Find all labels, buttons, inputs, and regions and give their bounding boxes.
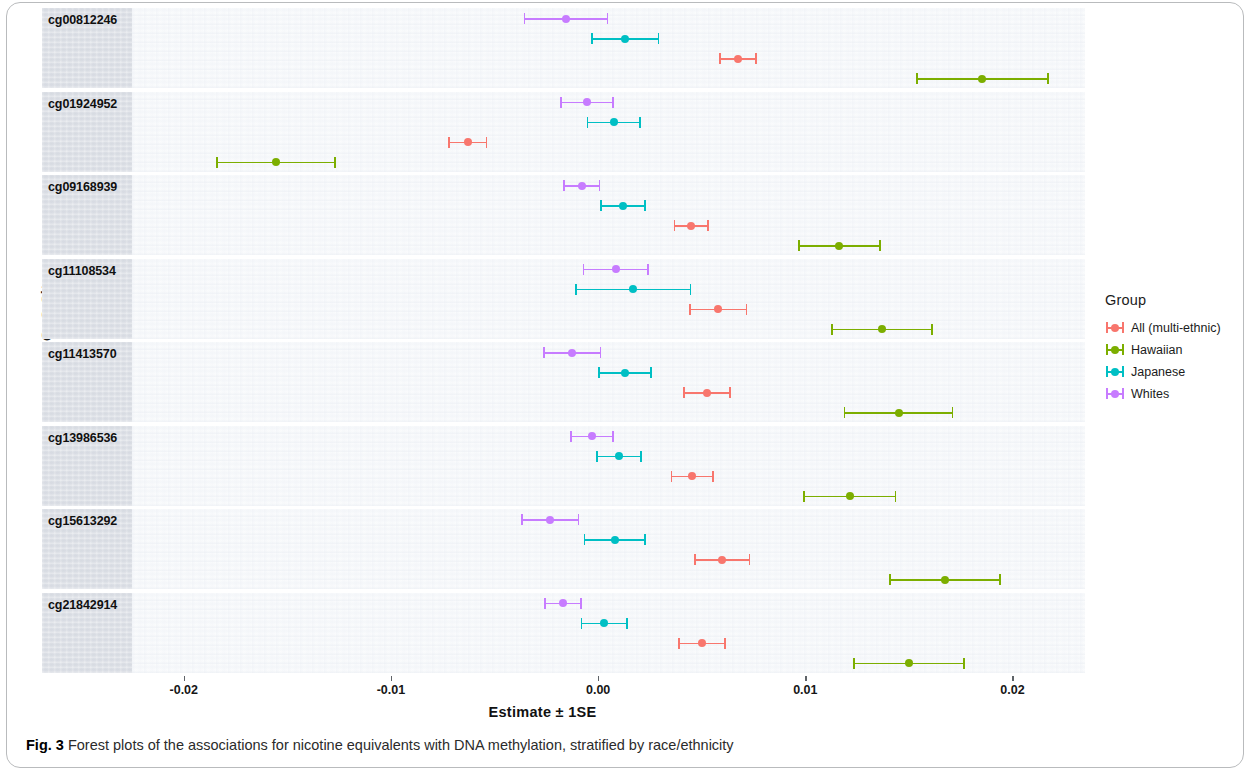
facet-row: cg00812246 — [42, 8, 1085, 88]
legend-item-hawaiian[interactable]: Hawaiian — [1105, 339, 1245, 361]
legend-key-capL — [1106, 344, 1108, 355]
facet-strip: cg00812246 — [42, 8, 132, 88]
x-tick-label: -0.01 — [356, 683, 426, 697]
cpg-site-label: cg09168939 — [48, 180, 117, 194]
legend-key-capL — [1106, 366, 1108, 377]
facet-strip: cg11413570 — [42, 342, 132, 422]
facet-panel — [132, 259, 1085, 339]
cpg-site-label: cg13986536 — [48, 431, 117, 445]
facet-panel — [132, 593, 1085, 673]
figure-number: Fig. 3 — [26, 737, 64, 753]
panel-texture — [132, 426, 1085, 506]
forest-plot: CpG Site cg00812246cg01924952cg09168939c… — [0, 0, 1254, 733]
facet-strip: cg01924952 — [42, 92, 132, 172]
legend-item-all-multi-ethnic[interactable]: All (multi-ethnic) — [1105, 317, 1245, 339]
legend-key-icon — [1105, 363, 1125, 381]
legend-item-list: All (multi-ethnic)HawaiianJapaneseWhites — [1105, 317, 1245, 405]
cpg-site-label: cg00812246 — [48, 13, 117, 27]
figure-caption-text: Forest plots of the associations for nic… — [68, 737, 734, 753]
panel-texture — [132, 92, 1085, 172]
legend-key-dot — [1111, 346, 1119, 354]
panel-texture — [132, 593, 1085, 673]
cpg-site-label: cg15613292 — [48, 514, 117, 528]
x-tick-label: -0.02 — [149, 683, 219, 697]
figure-caption: Fig. 3 Forest plots of the associations … — [26, 737, 734, 753]
facet-panel — [132, 92, 1085, 172]
legend-key-capL — [1106, 388, 1108, 399]
facet-row: cg01924952 — [42, 92, 1085, 172]
cpg-site-label: cg21842914 — [48, 598, 117, 612]
facet-strip: cg15613292 — [42, 509, 132, 589]
facet-panel — [132, 342, 1085, 422]
legend-key-capL — [1106, 322, 1108, 333]
facet-strip: cg09168939 — [42, 175, 132, 255]
legend-item-label: Hawaiian — [1131, 343, 1182, 357]
cpg-site-label: cg01924952 — [48, 97, 117, 111]
legend-title: Group — [1105, 292, 1245, 308]
facet-panel — [132, 426, 1085, 506]
legend-item-label: Japanese — [1131, 365, 1185, 379]
facet-panel — [132, 175, 1085, 255]
panel-texture — [132, 509, 1085, 589]
legend-key-icon — [1105, 319, 1125, 337]
panel-texture — [132, 342, 1085, 422]
legend-item-label: Whites — [1131, 387, 1169, 401]
x-tick-mark — [598, 676, 599, 681]
panel-texture — [132, 259, 1085, 339]
facet-panel — [132, 8, 1085, 88]
cpg-site-label: cg11413570 — [48, 347, 117, 361]
panel-texture — [132, 175, 1085, 255]
x-tick-label: 0.01 — [770, 683, 840, 697]
x-tick-mark — [184, 676, 185, 681]
legend: Group All (multi-ethnic)HawaiianJapanese… — [1105, 292, 1245, 405]
x-axis-title: Estimate ± 1SE — [0, 704, 1085, 720]
cpg-site-label: cg11108534 — [48, 264, 116, 278]
facet-strip: cg11108534 — [42, 259, 132, 339]
facet-panel-stack: cg00812246cg01924952cg09168939cg11108534… — [42, 8, 1085, 676]
facet-row: cg11413570 — [42, 342, 1085, 422]
legend-key-dot — [1111, 368, 1119, 376]
legend-key-capR — [1122, 388, 1124, 399]
legend-key-capR — [1122, 366, 1124, 377]
legend-item-whites[interactable]: Whites — [1105, 383, 1245, 405]
legend-item-japanese[interactable]: Japanese — [1105, 361, 1245, 383]
legend-item-label: All (multi-ethnic) — [1131, 321, 1221, 335]
facet-row: cg11108534 — [42, 259, 1085, 339]
facet-row: cg21842914 — [42, 593, 1085, 673]
x-tick-mark — [391, 676, 392, 681]
facet-strip: cg21842914 — [42, 593, 132, 673]
facet-strip: cg13986536 — [42, 426, 132, 506]
x-tick-mark — [805, 676, 806, 681]
facet-row: cg09168939 — [42, 175, 1085, 255]
facet-panel — [132, 509, 1085, 589]
facet-row: cg13986536 — [42, 426, 1085, 506]
x-tick-label: 0.02 — [977, 683, 1047, 697]
legend-key-dot — [1111, 390, 1119, 398]
legend-key-capR — [1122, 344, 1124, 355]
legend-key-icon — [1105, 341, 1125, 359]
x-tick-label: 0.00 — [563, 683, 633, 697]
legend-key-dot — [1111, 324, 1119, 332]
x-tick-mark — [1012, 676, 1013, 681]
facet-row: cg15613292 — [42, 509, 1085, 589]
legend-key-capR — [1122, 322, 1124, 333]
legend-key-icon — [1105, 385, 1125, 403]
panel-texture — [132, 8, 1085, 88]
